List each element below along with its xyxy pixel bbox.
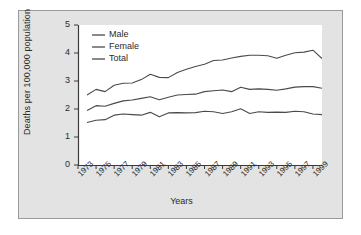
figure-panel: Deaths per 100,000 population Years 0123… <box>18 10 343 219</box>
axes-layer <box>19 11 344 220</box>
